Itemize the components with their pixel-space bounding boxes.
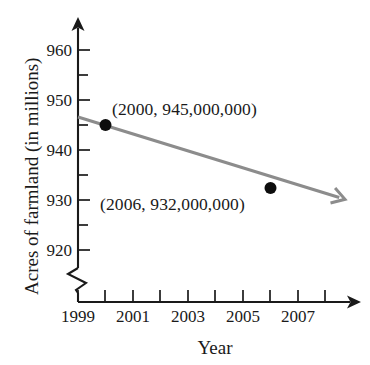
trend-line: [78, 117, 339, 198]
annotation-point-2000: (2000, 945,000,000): [112, 101, 257, 119]
farmland-line-chart: 960 950 940 930 920 1999 2001 2003 2005 …: [0, 0, 370, 365]
y-axis-title: Acres of farmland (in millions): [22, 58, 41, 295]
x-tick-label-2005: 2005: [218, 308, 268, 325]
x-tick-label-2001: 2001: [108, 308, 158, 325]
x-tick-label-1999: 1999: [53, 308, 103, 325]
data-point-2006[interactable]: [265, 182, 277, 194]
y-axis-break-icon: [68, 268, 86, 293]
x-axis-title: Year: [165, 338, 265, 357]
x-tick-label-2003: 2003: [163, 308, 213, 325]
annotation-point-2006: (2006, 932,000,000): [100, 196, 245, 214]
x-tick-label-2007: 2007: [273, 308, 323, 325]
y-tick-label-960: 960: [28, 42, 72, 59]
data-point-2000[interactable]: [100, 119, 112, 131]
